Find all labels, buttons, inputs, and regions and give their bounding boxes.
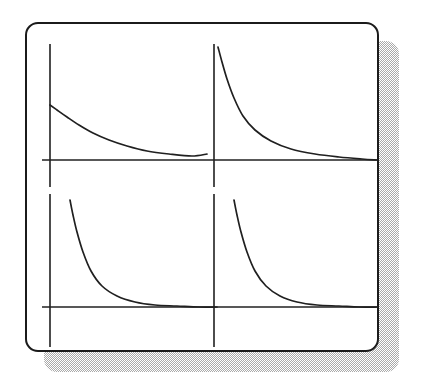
curve-top-left [50, 105, 207, 156]
decay-curves-plot [27, 24, 377, 350]
curve-bottom-left [70, 200, 217, 307]
upper-panel-axes [42, 44, 377, 187]
curve-top-right [218, 47, 377, 160]
lower-panel-axes [42, 194, 377, 347]
screenshot-stage [0, 0, 434, 392]
curve-bottom-right [234, 200, 377, 307]
figure-card [25, 22, 379, 352]
